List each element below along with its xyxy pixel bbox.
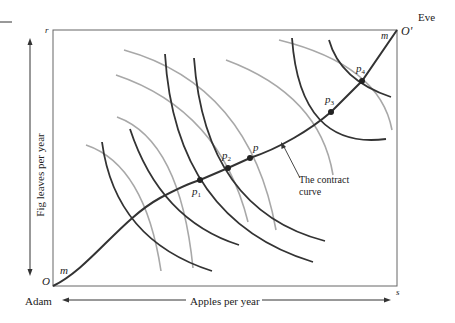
point-label-p: p xyxy=(253,142,259,153)
x-axis-label: Apples per year xyxy=(190,296,260,307)
point-p3 xyxy=(328,109,334,115)
edgeworth-box-figure: r O' Eve O s m m Adam Apples per year Fi… xyxy=(0,0,455,323)
adam-curve-4 xyxy=(194,58,325,241)
eve-curve-3 xyxy=(116,75,248,222)
y-axis-label-container: Fig leaves per year xyxy=(30,100,50,250)
contract-curve-annotation-arrow xyxy=(281,142,300,178)
corner-label-s: s xyxy=(396,288,400,297)
agent-label-eve: Eve xyxy=(418,12,435,23)
annotation-line-2: curve xyxy=(299,187,321,197)
corner-label-o: O xyxy=(42,276,50,287)
point-label-p2: p2 xyxy=(222,150,231,163)
point-p2 xyxy=(225,165,231,171)
corner-label-o-prime: O' xyxy=(401,25,412,37)
point-p xyxy=(247,155,253,161)
annotation-line-1: The contract xyxy=(299,175,349,185)
agent-label-adam: Adam xyxy=(25,296,52,307)
corner-label-r: r xyxy=(45,26,49,35)
contract-curve-end-m-top: m xyxy=(381,31,388,41)
eve-indifference-curves xyxy=(86,40,392,271)
contract-curve-end-m-origin: m xyxy=(60,265,68,276)
eve-curve-6 xyxy=(279,40,392,130)
point-p4 xyxy=(359,78,365,84)
contract-curve-points xyxy=(197,78,365,183)
point-p1 xyxy=(197,177,203,183)
point-label-p4: p4 xyxy=(356,63,365,76)
point-label-p1: p1 xyxy=(192,186,201,199)
y-axis-label: Fig leaves per year xyxy=(34,130,46,219)
point-label-p3: p3 xyxy=(325,94,334,107)
adam-indifference-curves xyxy=(102,38,391,271)
